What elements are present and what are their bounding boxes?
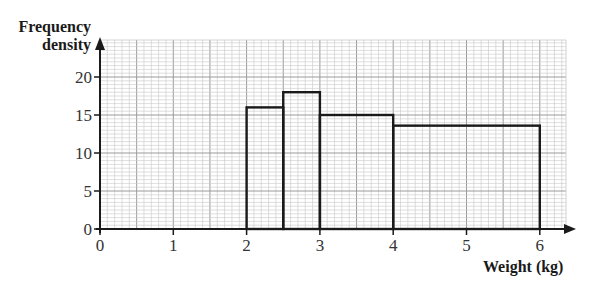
x-tick-label: 5 <box>462 236 471 255</box>
x-axis-label: Weight (kg) <box>483 258 563 276</box>
x-axis-arrow-icon <box>564 224 576 234</box>
y-tick-label: 10 <box>75 144 92 163</box>
x-tick-label: 3 <box>316 236 325 255</box>
y-tick-label: 15 <box>75 106 92 125</box>
grid <box>100 40 566 229</box>
y-tick-label: 0 <box>84 220 93 239</box>
y-axis-arrow-icon <box>95 37 105 50</box>
x-tick-label: 4 <box>389 236 398 255</box>
histogram-chart: 012345605101520 <box>0 0 589 291</box>
x-tick-label: 0 <box>96 236 105 255</box>
y-tick-label: 20 <box>75 68 92 87</box>
x-tick-label: 1 <box>169 236 178 255</box>
x-tick-label: 6 <box>536 236 545 255</box>
y-tick-label: 5 <box>84 182 93 201</box>
axes <box>95 37 576 234</box>
x-tick-label: 2 <box>242 236 251 255</box>
